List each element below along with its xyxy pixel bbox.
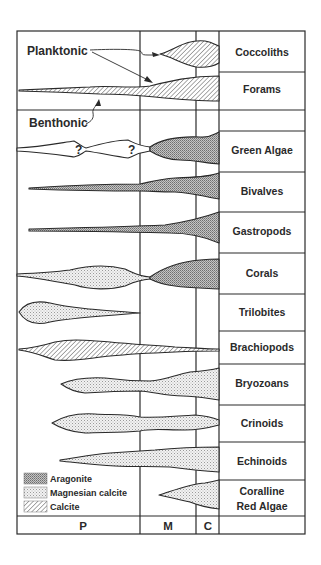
label-trilobites: Trilobites — [239, 306, 286, 318]
label-green-algae: Green Algae — [231, 144, 293, 156]
spindle-corals — [150, 259, 219, 289]
spindle-crinoids — [52, 414, 219, 433]
legend-label-aragonite: Aragonite — [50, 474, 92, 484]
planktonic-label: Planktonic — [27, 44, 88, 58]
label-gastropods: Gastropods — [233, 225, 292, 237]
benthonic-label: Benthonic — [29, 116, 88, 130]
label-forams: Forams — [243, 83, 281, 95]
label-brachiopods: Brachiopods — [230, 341, 294, 353]
label-crinoids: Crinoids — [241, 417, 284, 429]
spindle-coralline-red-algae — [159, 480, 219, 509]
period-c: C — [204, 520, 212, 532]
label-coralline-line2: Red Algae — [237, 500, 288, 512]
arrowhead — [95, 99, 101, 106]
legend-swatch-calcite — [24, 501, 47, 512]
label-echinoids: Echinoids — [237, 455, 287, 467]
skeletal-mineralogy-diagram: Planktonic Benthonic ? ? Coccoliths Fora… — [0, 0, 321, 565]
question-mark: ? — [128, 143, 135, 157]
spindle-brachiopods — [19, 340, 219, 361]
legend-swatch-mgcalcite — [24, 487, 47, 498]
period-axis: P M C — [79, 520, 212, 532]
spindle-corals-mg — [17, 266, 150, 289]
period-p: P — [79, 520, 87, 532]
label-coccoliths: Coccoliths — [235, 46, 289, 58]
label-coralline-line1: Coralline — [240, 485, 285, 497]
spindle-forams — [19, 76, 219, 101]
benthonic-arrow — [86, 103, 98, 124]
question-mark: ? — [75, 143, 82, 157]
planktonic-arrow-to-forams — [92, 52, 150, 81]
label-bryozoans: Bryozoans — [235, 377, 289, 389]
label-bivalves: Bivalves — [241, 185, 284, 197]
label-corals: Corals — [246, 267, 279, 279]
arrowhead — [152, 52, 160, 57]
planktonic-arrow-to-coccoliths — [90, 49, 156, 55]
period-m: M — [163, 520, 173, 532]
legend: Aragonite Magnesian calcite Calcite — [24, 473, 127, 512]
spindle-gastropods — [29, 212, 219, 243]
arrowhead — [144, 76, 153, 83]
legend-label-mgcalcite: Magnesian calcite — [50, 488, 127, 498]
spindle-trilobites — [19, 302, 140, 324]
benthonic-annotation: Benthonic — [29, 99, 101, 130]
legend-swatch-aragonite — [24, 473, 47, 484]
spindle-green-algae — [150, 132, 219, 164]
legend-label-calcite: Calcite — [50, 502, 80, 512]
spindle-coccoliths — [160, 41, 219, 68]
spindle-bivalves — [29, 173, 219, 199]
